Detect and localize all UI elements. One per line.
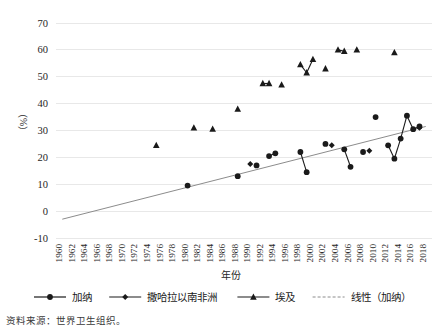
- data-point-加纳: [348, 164, 354, 170]
- data-point-加纳: [235, 173, 241, 179]
- x-tick-label: 2010: [368, 244, 378, 263]
- x-tick-label: 2014: [393, 244, 403, 263]
- data-point-加纳: [392, 156, 398, 162]
- x-tick-label: 1972: [129, 244, 139, 263]
- y-axis-title: （%）: [18, 108, 29, 136]
- x-tick-label: 1966: [92, 244, 102, 263]
- x-tick-label: 1980: [180, 244, 190, 263]
- y-tick-label: 40: [38, 98, 49, 109]
- data-point-加纳: [185, 183, 191, 189]
- x-tick-label: 1960: [54, 244, 64, 263]
- y-tick-label: 50: [38, 71, 49, 82]
- y-tick-label: 20: [38, 152, 49, 163]
- chart-footer: 资料来源：世界卫生组织。: [6, 315, 126, 326]
- x-tick-label: 1986: [217, 244, 227, 263]
- x-tick-label: 1984: [205, 244, 215, 263]
- x-tick-label: 1978: [167, 244, 177, 263]
- data-point-加纳: [304, 169, 310, 175]
- source-note: 资料来源：世界卫生组织。: [6, 315, 126, 326]
- data-point-加纳: [404, 113, 410, 119]
- y-tick-label: 70: [38, 18, 49, 29]
- x-tick-label: 1968: [104, 244, 114, 263]
- legend-label: 加纳: [72, 291, 92, 303]
- x-tick-label: 1962: [67, 244, 77, 263]
- x-tick-label: 2018: [418, 244, 428, 263]
- x-tick-label: 2002: [317, 244, 327, 263]
- data-point-加纳: [341, 146, 347, 152]
- y-tick-label: 10: [38, 179, 49, 190]
- legend-label: 埃及: [275, 291, 296, 303]
- data-point-加纳: [360, 149, 366, 155]
- data-point-加纳: [254, 163, 260, 169]
- x-tick-label: 1994: [267, 244, 277, 263]
- y-tick-label: 30: [38, 125, 49, 136]
- x-tick-label: 1998: [292, 244, 302, 263]
- x-tick-label: 2004: [330, 244, 340, 263]
- x-tick-label: 1970: [117, 244, 127, 263]
- x-tick-label: 2006: [343, 244, 353, 263]
- x-tick-label: 1992: [255, 244, 265, 263]
- y-tick-label: 0: [43, 206, 48, 217]
- data-point-加纳: [298, 149, 304, 155]
- data-point-加纳: [398, 136, 404, 142]
- x-axis-title: 年份: [221, 269, 241, 281]
- x-tick-label: 2008: [355, 244, 365, 263]
- chart-container: 706050403020100-10 196019621964196619681…: [0, 0, 443, 331]
- x-tick-label: 1996: [280, 244, 290, 263]
- data-point-加纳: [272, 150, 278, 156]
- x-tick-label: 1974: [142, 244, 152, 263]
- data-point-加纳: [266, 153, 272, 159]
- legend-marker-circle-icon: [47, 294, 53, 300]
- y-tick-label: 60: [38, 44, 49, 55]
- data-point-加纳: [373, 114, 379, 120]
- x-tick-label: 1982: [192, 244, 202, 263]
- data-point-加纳: [410, 126, 416, 132]
- x-tick-label: 2016: [405, 244, 415, 263]
- x-tick-label: 1990: [242, 244, 252, 263]
- x-tick-label: 2000: [305, 244, 315, 263]
- data-point-加纳: [385, 142, 391, 148]
- data-point-加纳: [323, 141, 329, 147]
- y-tick-label: -10: [34, 233, 48, 244]
- legend-label: 撒哈拉以南非洲: [147, 291, 217, 303]
- legend-label: 线性（加纳）: [351, 291, 411, 303]
- figure-canvas: 706050403020100-10 196019621964196619681…: [0, 0, 443, 331]
- x-tick-label: 2012: [380, 244, 390, 263]
- x-tick-label: 1964: [79, 244, 89, 263]
- x-tick-label: 1976: [155, 244, 165, 263]
- x-tick-label: 1988: [230, 244, 240, 263]
